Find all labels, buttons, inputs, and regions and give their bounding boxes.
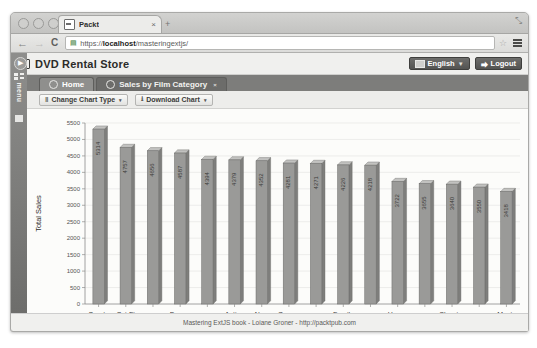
- grid-icon: [14, 73, 24, 82]
- app-header: DVD Rental Store English ▼ ⮕ Logout: [11, 53, 528, 75]
- bar-value-label: 4757: [122, 159, 128, 173]
- bar-side-face: [485, 184, 488, 304]
- bar-side-face: [376, 162, 379, 304]
- chevron-down-icon: ▾: [119, 97, 122, 103]
- bar-side-face: [240, 157, 243, 304]
- bar-value-label: 4226: [340, 177, 346, 191]
- bookmark-star-icon[interactable]: ☆: [499, 38, 507, 48]
- expand-sidebar-button[interactable]: ▶: [14, 57, 27, 70]
- chevron-down-icon: ▾: [204, 97, 207, 103]
- y-axis-title: Total Sales: [34, 195, 43, 232]
- bar-side-face: [267, 158, 270, 304]
- bar-value-label: 4656: [149, 163, 155, 177]
- close-icon[interactable]: ×: [213, 82, 217, 88]
- new-tab-button[interactable]: +: [165, 19, 170, 29]
- y-axis-tick: 2500: [67, 219, 81, 225]
- menu-icon[interactable]: [513, 39, 522, 47]
- download-icon: ⭳: [141, 94, 143, 105]
- chart-canvas[interactable]: 0500100015002000250030003500400045005000…: [27, 109, 528, 331]
- close-window-button[interactable]: [18, 18, 29, 29]
- bar-chart-icon: ‖: [45, 96, 48, 103]
- forward-icon[interactable]: →: [34, 38, 45, 49]
- browser-window: Packt × + ⤡ ← → C ▤ https://localhost/ma…: [10, 12, 529, 332]
- browser-tab-title: Packt: [79, 20, 99, 29]
- chart-panel: ‖ Change Chart Type ▾ ⭳ Download Chart ▾…: [27, 91, 528, 331]
- lock-icon: ▤: [70, 39, 77, 47]
- y-axis-tick: 0: [77, 301, 81, 307]
- y-axis-tick: 2000: [67, 235, 81, 241]
- bar-side-face: [458, 181, 461, 304]
- tab-home[interactable]: Home: [39, 77, 94, 91]
- language-label: English: [428, 59, 455, 68]
- y-axis-tick: 1000: [67, 268, 81, 274]
- bar-value-label: 3640: [449, 196, 455, 210]
- bar-side-face: [104, 126, 107, 304]
- bar-side-face: [213, 156, 216, 304]
- minimize-window-button[interactable]: [33, 18, 44, 29]
- bar-side-face: [512, 188, 515, 304]
- reload-icon[interactable]: C: [51, 38, 58, 48]
- app-tab-bar: Home Sales by Film Category ×: [11, 75, 528, 91]
- bar-value-label: 3722: [394, 194, 400, 208]
- logout-label: Logout: [491, 59, 516, 68]
- bar-side-face: [295, 160, 298, 304]
- bar-value-label: 3418: [503, 204, 509, 218]
- y-axis-tick: 5000: [67, 136, 81, 142]
- logout-button[interactable]: ⮕ Logout: [475, 57, 522, 70]
- url-text: https://localhost/masteringextjs/: [80, 39, 188, 48]
- home-icon: [49, 80, 58, 89]
- download-chart-button[interactable]: ⭳ Download Chart ▾: [135, 94, 213, 106]
- bar-value-label: 4352: [258, 173, 264, 187]
- change-chart-type-button[interactable]: ‖ Change Chart Type ▾: [39, 94, 128, 106]
- language-dropdown[interactable]: English ▼: [409, 57, 470, 70]
- chart-icon: [106, 80, 115, 89]
- bar-value-label: 4218: [367, 177, 373, 191]
- sidebar-menu-label: menu: [16, 83, 23, 111]
- y-axis-tick: 1500: [67, 252, 81, 258]
- bar-value-label: 4271: [313, 175, 319, 189]
- sidebar-menu-rail[interactable]: ▶ menu: [11, 53, 27, 331]
- bar-side-face: [186, 150, 189, 304]
- bar-side-face: [322, 160, 325, 304]
- footer-text: Mastering ExtJS book - Loiane Groner - h…: [183, 319, 356, 326]
- bar-side-face: [131, 144, 134, 304]
- browser-toolbar: ← → C ▤ https://localhost/masteringextjs…: [11, 34, 528, 53]
- back-icon[interactable]: ←: [17, 38, 28, 49]
- y-axis-tick: 3500: [67, 186, 81, 192]
- bar-chart: 0500100015002000250030003500400045005000…: [27, 109, 528, 332]
- application-viewport: DVD Rental Store English ▼ ⮕ Logout: [11, 53, 528, 331]
- bar-value-label: 3550: [476, 199, 482, 213]
- tab-sales-by-film-category[interactable]: Sales by Film Category ×: [96, 77, 227, 91]
- y-axis-tick: 3000: [67, 202, 81, 208]
- page-title: DVD Rental Store: [35, 58, 129, 70]
- bar-side-face: [431, 181, 434, 304]
- bar-side-face: [159, 148, 162, 304]
- tab-sales-label: Sales by Film Category: [119, 80, 207, 89]
- browser-tab[interactable]: Packt ×: [58, 15, 162, 33]
- expand-icon[interactable]: ⤡: [515, 16, 522, 27]
- logout-icon: ⮕: [481, 59, 488, 69]
- list-icon: [15, 115, 23, 122]
- bar-side-face: [403, 178, 406, 304]
- y-axis-tick: 4000: [67, 169, 81, 175]
- address-bar[interactable]: ▤ https://localhost/masteringextjs/: [65, 36, 495, 50]
- screenshot-root: Packt × + ⤡ ← → C ▤ https://localhost/ma…: [0, 0, 537, 348]
- y-axis-tick: 500: [70, 285, 81, 291]
- window-controls[interactable]: [18, 18, 59, 29]
- tab-home-label: Home: [62, 80, 84, 89]
- change-chart-type-label: Change Chart Type: [51, 96, 115, 103]
- bar-value-label: 4379: [231, 172, 237, 186]
- bar-side-face: [349, 162, 352, 304]
- download-chart-label: Download Chart: [146, 96, 200, 103]
- chevron-down-icon: ▼: [458, 61, 464, 67]
- bar-value-label: 4587: [177, 165, 183, 179]
- y-axis-tick: 5500: [67, 120, 81, 126]
- chart-toolbar: ‖ Change Chart Type ▾ ⭳ Download Chart ▾: [27, 91, 528, 109]
- y-axis-tick: 4500: [67, 153, 81, 159]
- header-actions: English ▼ ⮕ Logout: [409, 57, 522, 70]
- close-icon[interactable]: ×: [151, 21, 156, 29]
- browser-tab-strip: Packt × + ⤡: [11, 13, 528, 34]
- flag-icon: [415, 60, 425, 68]
- bar-value-label: 4281: [285, 175, 291, 189]
- favicon-icon: [64, 19, 75, 30]
